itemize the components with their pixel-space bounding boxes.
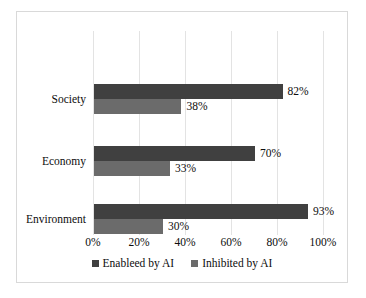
category-label-society: Society bbox=[52, 94, 87, 106]
legend-label-enabled: Enableed by AI bbox=[103, 258, 175, 270]
bar-society-inhibited[interactable]: 38% bbox=[94, 99, 181, 114]
bar-environment-enabled[interactable]: 93% bbox=[94, 204, 308, 219]
legend-item-inhibited[interactable]: Inhibited by AI bbox=[191, 258, 272, 270]
bar-value-environment-inhibited: 30% bbox=[168, 221, 189, 233]
category-label-economy: Economy bbox=[42, 156, 86, 168]
x-tick-20: 20% bbox=[128, 237, 149, 249]
legend-item-enabled[interactable]: Enableed by AI bbox=[92, 258, 175, 270]
x-tick-40: 40% bbox=[174, 237, 195, 249]
x-tick-100: 100% bbox=[310, 237, 337, 249]
plot-area: Society 82% 38% Economy 70% 33% Environm… bbox=[93, 31, 323, 235]
chart-frame: Society 82% 38% Economy 70% 33% Environm… bbox=[16, 11, 348, 283]
bar-value-economy-enabled: 70% bbox=[260, 148, 281, 160]
x-axis-tick-labels: 0% 20% 40% 60% 80% 100% bbox=[93, 237, 323, 253]
bar-economy-inhibited[interactable]: 33% bbox=[94, 161, 170, 176]
bar-economy-enabled[interactable]: 70% bbox=[94, 146, 255, 161]
legend-label-inhibited: Inhibited by AI bbox=[202, 258, 272, 270]
legend-swatch-icon-inhibited bbox=[191, 260, 198, 267]
bar-environment-inhibited[interactable]: 30% bbox=[94, 219, 163, 234]
legend-swatch-icon-enabled bbox=[92, 260, 99, 267]
chart-legend: Enableed by AI Inhibited by AI bbox=[17, 258, 347, 270]
bar-group-economy: Economy 70% 33% bbox=[93, 146, 323, 178]
bar-value-environment-enabled: 93% bbox=[313, 206, 334, 218]
x-tick-80: 80% bbox=[266, 237, 287, 249]
bar-value-society-inhibited: 38% bbox=[186, 101, 207, 113]
bar-society-enabled[interactable]: 82% bbox=[94, 84, 283, 99]
bar-group-environment: Environment 93% 30% bbox=[93, 204, 323, 236]
x-tick-0: 0% bbox=[85, 237, 100, 249]
bar-group-society: Society 82% 38% bbox=[93, 84, 323, 116]
bar-value-economy-inhibited: 33% bbox=[175, 163, 196, 175]
bar-value-society-enabled: 82% bbox=[288, 86, 309, 98]
x-tick-60: 60% bbox=[220, 237, 241, 249]
category-label-environment: Environment bbox=[26, 214, 86, 226]
